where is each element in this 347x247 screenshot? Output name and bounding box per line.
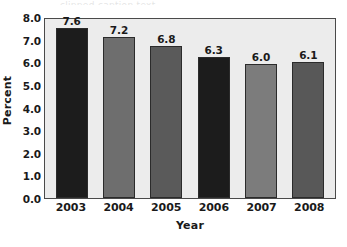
bar-value-label: 7.2 (110, 24, 128, 36)
x-tick-label: 2004 (95, 201, 143, 217)
x-tick-label: 2007 (238, 201, 286, 217)
bar-value-label: 7.6 (63, 15, 81, 27)
bar-chart-figure: clipped caption text Percent 8.07.06.05.… (0, 0, 347, 247)
scan-artifact-text: clipped caption text (60, 0, 290, 5)
bar-value-label: 6.8 (157, 33, 175, 45)
y-axis-title-text: Percent (2, 75, 15, 124)
x-tick-label: 2008 (285, 201, 333, 217)
bar-value-label: 6.0 (252, 51, 270, 63)
y-tick-label: 8.0 (23, 12, 41, 24)
y-tick-label: 4.0 (23, 103, 41, 115)
y-tick-label: 7.0 (23, 35, 41, 47)
y-tick-label: 6.0 (23, 57, 41, 69)
bar-slot: 7.6 (48, 19, 95, 198)
bar-slot: 6.1 (285, 19, 332, 198)
y-tick-label: 5.0 (23, 80, 41, 92)
x-tick-label: 2003 (47, 201, 95, 217)
x-tick-label: 2006 (190, 201, 238, 217)
bar-2003[interactable] (56, 28, 88, 198)
bar-value-label: 6.3 (204, 44, 222, 56)
x-tick-label: 2005 (142, 201, 190, 217)
x-axis-tick-labels: 200320042005200620072008 (44, 201, 336, 217)
bar-2005[interactable] (150, 46, 182, 198)
y-tick-label: 0.0 (23, 193, 41, 205)
bar-2008[interactable] (292, 62, 324, 198)
y-tick-label: 2.0 (23, 148, 41, 160)
y-tick-label: 1.0 (23, 170, 41, 182)
y-axis-tick-labels: 8.07.06.05.04.03.02.01.00.0 (14, 18, 43, 199)
bar-slot: 6.3 (190, 19, 237, 198)
x-axis-title: Year (44, 219, 336, 232)
bar-series: 7.67.26.86.36.06.1 (45, 19, 335, 198)
bar-slot: 7.2 (95, 19, 142, 198)
plot-area: 7.67.26.86.36.06.1 (44, 18, 336, 199)
bar-2006[interactable] (198, 57, 230, 198)
y-tick-label: 3.0 (23, 125, 41, 137)
bar-2007[interactable] (245, 64, 277, 198)
bar-value-label: 6.1 (299, 49, 317, 61)
bar-slot: 6.8 (143, 19, 190, 198)
bar-slot: 6.0 (237, 19, 284, 198)
bar-2004[interactable] (103, 37, 135, 198)
